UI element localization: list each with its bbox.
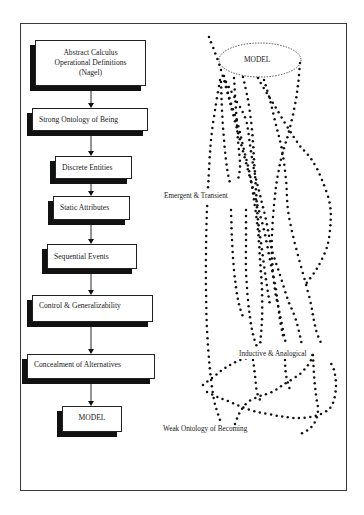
emergent-transient-label: Emergent & Transient [163,192,229,201]
flow-step-label: Static Attributes [60,203,109,213]
flow-step-strong-ontology: Strong Ontology of Being [32,108,148,131]
flow-step-concealment-alternatives: Concealment of Alternatives [27,354,155,379]
flow-step-line: (Nagel) [55,68,127,78]
weak-ontology-label: Weak Ontology of Becoming [163,425,247,434]
flow-step-static-attributes: Static Attributes [53,196,130,220]
flow-step-sequential-events: Sequential Events [47,244,137,269]
flow-step-control-generalizability: Control & Generalizability [32,295,153,322]
flow-step-label: MODEL [79,413,106,423]
flow-step-label: Concealment of Alternatives [34,360,121,370]
inductive-analogical-label: Inductive & Analogical [238,350,307,359]
flow-step-abstract-calculus: Abstract Calculus Operational Definition… [35,40,146,86]
flow-step-model: MODEL [62,406,122,432]
flow-step-label: Control & Generalizability [39,301,121,311]
weak-model-label: MODEL [244,55,270,64]
flow-step-label: Sequential Events [54,252,109,262]
flow-step-label: Strong Ontology of Being [39,115,118,125]
flow-step-discrete-entities: Discrete Entities [55,156,132,179]
flow-step-line: Operational Definitions [55,58,127,68]
flow-step-label: Discrete Entities [62,163,112,173]
flow-step-line: Abstract Calculus [55,48,127,58]
